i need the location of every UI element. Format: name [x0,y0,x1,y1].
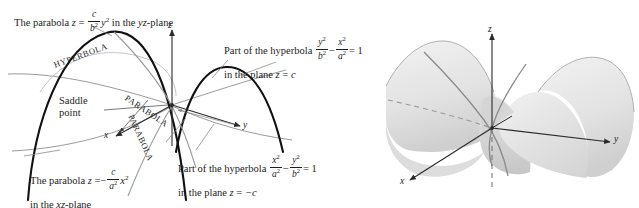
caption-br-fraction-1: x2 a2 [270,154,282,181]
caption-br-op: − [283,163,289,174]
axis-label-y-right: y [614,134,618,144]
caption-bl-line2-lead: in the [30,199,54,208]
left-schematic-panel: HYPERBOLA PARABOLA PARABOLA Saddle point… [0,0,380,208]
caption-tr-f1-den-exp: 2 [323,49,326,56]
caption-tl-frac-den-exp: 2 [95,21,98,28]
origin-marker-right [490,126,494,130]
caption-tr-f2-den-exp: 2 [343,49,346,56]
saddle-point-line2: point [59,107,88,119]
caption-br-equals: = 1 [303,163,317,174]
caption-bl-line1: The parabola z =− c a2 x2 [30,166,129,193]
surface-3d-vector-graphic [380,0,639,208]
caption-tl-frac-num: c [92,9,96,19]
caption-bl-minus: − [100,175,106,186]
leader-bottom-left-caption [24,150,60,156]
saddle-point-marker [170,103,174,107]
caption-tl-equals: = [78,17,84,28]
caption-bl-fraction: c a2 [107,166,119,193]
caption-tr-line2-eq: = [282,69,288,80]
caption-tl-var-z: z [72,17,76,28]
caption-br-line2-lead: in the plane [178,187,227,198]
caption-br-line2-eq: = [236,187,242,198]
saddle-point-line1: Saddle [59,95,88,107]
caption-br-f1-den-exp: 2 [277,167,280,174]
caption-bl-line2-suffix: -plane [65,199,91,208]
caption-tl-tail: in the [112,17,136,28]
caption-bl-line2-plane: xz [56,199,65,208]
saddle-point-label: Saddle point [59,95,88,120]
caption-tr-equals: = 1 [349,45,363,56]
caption-br-line2-val: −c [245,187,257,198]
caption-tl-fraction: c b2 [88,8,100,35]
figure-saddle-surface: HYPERBOLA PARABOLA PARABOLA Saddle point… [0,0,639,208]
caption-parabola-yz-plane: The parabola z = c b2 y2 in the yz-plane [14,8,173,35]
caption-br-f1-num-exp: 2 [276,153,279,160]
caption-br-f2-num-exp: 2 [296,153,299,160]
caption-tl-plane-suffix: -plane [147,17,173,28]
leader-bottom-right-arrow [178,110,232,124]
caption-br-line2: in the plane z = −c [178,186,317,200]
caption-br-line1: Part of the hyperbola x2 a2 − y2 b2 = 1 [178,154,317,181]
caption-tl-plane: yz [138,17,147,28]
caption-br-lead: Part of the hyperbola [178,163,266,174]
caption-br-line2-var: z [230,187,234,198]
axis-label-x-right: x [400,176,404,186]
right-3d-surface-panel: z y x [380,0,639,208]
axis-label-x-left: x [104,130,108,140]
caption-bl-line2: in the xz-plane [30,198,129,208]
caption-tr-line2-lead: in the plane [224,69,273,80]
caption-tr-f1-num-exp: 2 [322,35,325,42]
caption-tr-lead: Part of the hyperbola [224,45,312,56]
caption-hyperbola-z-equals-minus-c: Part of the hyperbola x2 a2 − y2 b2 = 1 … [178,154,317,200]
caption-tl-var-y-exp: 2 [106,16,110,24]
caption-tl-lead: The parabola [14,17,69,28]
caption-parabola-xz-plane: The parabola z =− c a2 x2 in the xz-plan… [30,166,129,208]
caption-tr-line2: in the plane z = c [224,68,363,82]
caption-tr-fraction-2: x2 a2 [336,36,348,63]
caption-tr-line1: Part of the hyperbola y2 b2 − x2 a2 = 1 [224,36,363,63]
leader-bottom-right-caption [196,124,214,150]
caption-tr-fraction-1: y2 b2 [316,36,328,63]
caption-bl-var-z: z [88,175,92,186]
caption-bl-lead: The parabola [30,175,85,186]
caption-hyperbola-z-equals-c: Part of the hyperbola y2 b2 − x2 a2 = 1 … [224,36,363,82]
caption-br-fraction-2: y2 b2 [290,154,302,181]
axis-label-y-left: y [243,120,247,130]
caption-br-f2-den-exp: 2 [297,167,300,174]
caption-bl-frac-den-exp: 2 [114,179,117,186]
axis-label-z-right: z [488,24,492,34]
caption-tr-f2-num-exp: 2 [342,35,345,42]
caption-tr-line2-val: c [291,69,296,80]
caption-bl-var-x-exp: 2 [125,174,129,182]
caption-tr-line2-var: z [276,69,280,80]
caption-tr-op: − [329,45,335,56]
caption-bl-frac-num: c [111,167,115,177]
